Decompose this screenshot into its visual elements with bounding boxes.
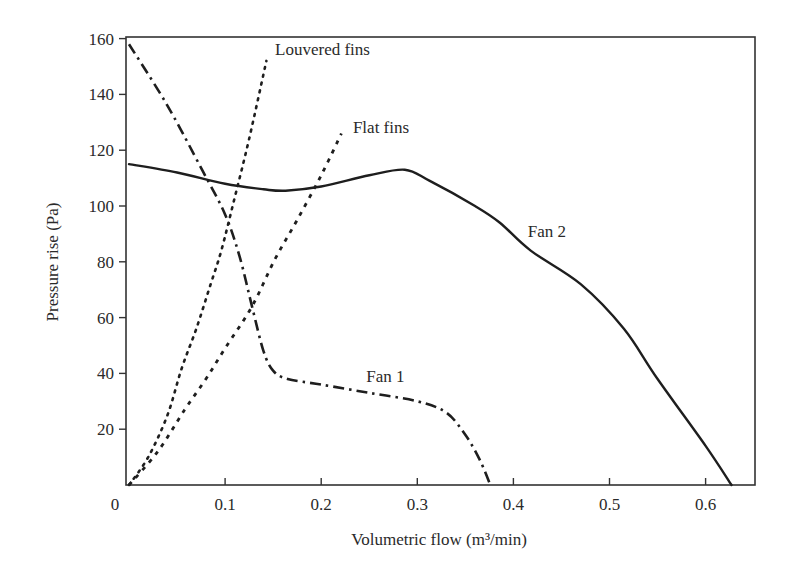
y-tick-label: 140 bbox=[89, 85, 115, 104]
annotation-fan-1: Fan 1 bbox=[366, 367, 404, 386]
y-tick-label: 100 bbox=[89, 197, 115, 216]
y-tick-label: 80 bbox=[97, 253, 114, 272]
y-tick-label: 120 bbox=[89, 141, 115, 160]
x-tick-label: 0.6 bbox=[695, 495, 716, 514]
x-tick-label: 0.5 bbox=[599, 495, 620, 514]
x-axis-label: Volumetric flow (m³/min) bbox=[351, 530, 527, 549]
annotation-fan-2: Fan 2 bbox=[528, 222, 566, 241]
y-axis-label: Pressure rise (Pa) bbox=[43, 203, 62, 322]
annotation-flat-fins: Flat fins bbox=[353, 118, 409, 137]
x-tick-label: 0 bbox=[111, 495, 120, 514]
chart-background bbox=[0, 0, 797, 577]
y-tick-label: 60 bbox=[97, 309, 114, 328]
x-tick-label: 0.4 bbox=[503, 495, 525, 514]
chart-canvas: 00.10.20.30.40.50.6 20406080100120140160… bbox=[0, 0, 797, 577]
y-tick-label: 160 bbox=[89, 30, 115, 49]
y-tick-label: 20 bbox=[97, 420, 114, 439]
annotation-louvered-fins: Louvered fins bbox=[275, 40, 370, 59]
y-tick-label: 40 bbox=[97, 364, 114, 383]
x-tick-label: 0.1 bbox=[214, 495, 235, 514]
x-tick-label: 0.3 bbox=[407, 495, 428, 514]
x-tick-label: 0.2 bbox=[311, 495, 332, 514]
